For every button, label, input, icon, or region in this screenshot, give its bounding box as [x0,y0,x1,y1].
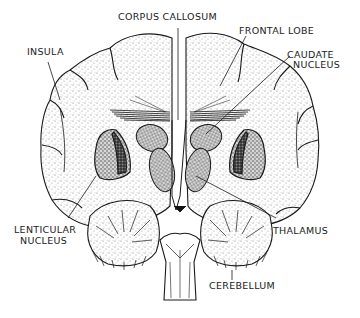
label-lenticular-line2: NUCLEUS [20,235,67,246]
label-thalamus: THALAMUS [273,225,328,236]
label-frontal-lobe: FRONTAL LOBE [239,25,314,36]
label-corpus-callosum: CORPUS CALLOSUM [118,11,217,22]
label-lenticular-line1: LENTICULAR [14,224,76,235]
brainstem [160,233,200,300]
lenticular-nuclei [95,130,265,180]
label-caudate-line2: NUCLEUS [293,59,340,70]
label-insula: INSULA [27,46,64,57]
label-cerebellum: CEREBELLUM [209,280,275,291]
midline [172,120,186,212]
